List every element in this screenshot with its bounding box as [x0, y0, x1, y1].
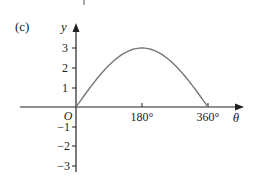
x-tick-label: 180° — [131, 110, 154, 124]
y-tick-label: 3 — [62, 41, 68, 55]
y-axis-arrow-icon — [73, 23, 80, 32]
y-tick-label: −3 — [57, 159, 70, 173]
sine-curve — [76, 48, 208, 107]
x-tick-label: 360° — [197, 110, 220, 124]
part-label: (c) — [15, 19, 29, 34]
y-axis-label: y — [59, 19, 67, 34]
y-tick-label: −2 — [57, 139, 70, 153]
y-tick-label: 1 — [62, 81, 68, 95]
y-tick-label: 2 — [62, 61, 68, 75]
origin-label: O — [64, 109, 73, 123]
chart-svg: 3 2 1 −1 −2 −3 180° 360° O y θ (c) — [0, 0, 255, 178]
x-axis-label: θ — [233, 110, 240, 125]
